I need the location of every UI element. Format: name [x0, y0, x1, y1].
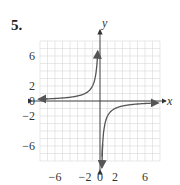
- x-tick-label: 6: [142, 170, 148, 184]
- x-tick-label: 0: [97, 170, 103, 184]
- curve-branches: [39, 51, 159, 168]
- y-tick-label: 2: [29, 79, 35, 93]
- x-tick-label: −6: [49, 170, 62, 184]
- y-tick-label: −6: [22, 139, 35, 153]
- x-axis-label: x: [166, 94, 173, 108]
- axes: [32, 30, 166, 170]
- y-tick-label: 6: [29, 49, 35, 63]
- x-tick-label: −2: [79, 170, 92, 184]
- curve-branch-II: [42, 51, 98, 99]
- hyperbola-chart: −6−2026620−2−6 x y: [0, 0, 180, 185]
- y-tick-label: −2: [22, 109, 35, 123]
- curve-arrow-bottom: [102, 144, 103, 168]
- y-tick-label: 0: [29, 94, 35, 108]
- y-axis-label: y: [101, 16, 108, 30]
- x-tick-label: 2: [112, 170, 118, 184]
